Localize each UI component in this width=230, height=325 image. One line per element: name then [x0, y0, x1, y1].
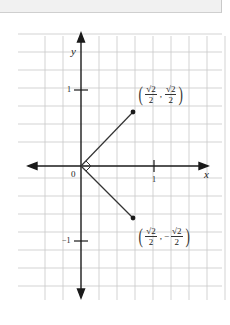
vector-lower	[81, 166, 133, 218]
x-axis-label: x	[204, 169, 209, 180]
x-fraction: √2 2	[145, 226, 156, 247]
close-paren: )	[179, 83, 183, 105]
coordinate-plane	[0, 0, 230, 325]
y-axis-label: y	[71, 46, 76, 57]
minus-sign: −	[164, 231, 169, 241]
origin-label: 0	[71, 170, 76, 179]
open-paren: (	[138, 225, 142, 247]
y-fraction: √2 2	[171, 226, 182, 247]
upper-point-label: ( √2 2 , √2 2 )	[137, 83, 185, 105]
x-fraction: √2 2	[145, 84, 156, 105]
y-tick-label-neg1: −1	[62, 237, 71, 245]
vector-upper	[81, 112, 133, 166]
x-axis	[28, 160, 208, 172]
y-axis-down-arrow-icon	[78, 289, 85, 298]
grid	[18, 34, 225, 300]
lower-point-label: ( √2 2 , − √2 2 )	[137, 225, 191, 247]
open-paren: (	[138, 83, 142, 105]
y-tick-label-1: 1	[67, 86, 71, 94]
vectors	[81, 110, 135, 221]
point-lower-dot-icon	[131, 216, 136, 221]
close-paren: )	[185, 225, 189, 247]
x-axis-left-arrow-icon	[28, 163, 37, 170]
point-upper-dot-icon	[131, 110, 136, 115]
x-tick-label-1: 1	[152, 176, 156, 184]
y-fraction: √2 2	[165, 84, 176, 105]
